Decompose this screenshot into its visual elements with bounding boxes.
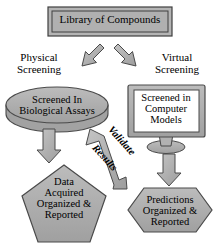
data-reported-line3: Organized & bbox=[20, 198, 108, 209]
physical-screening-label: Physical Screening bbox=[8, 52, 70, 75]
data-reported-line1: Data bbox=[20, 176, 108, 187]
diagram-canvas: Library of Compounds Physical Screening … bbox=[0, 0, 218, 250]
computer-models-line3: Models bbox=[134, 114, 198, 125]
biological-assays-label: Screened In Biological Assays bbox=[8, 94, 106, 116]
virtual-screening-arrow bbox=[114, 44, 136, 66]
predictions-reported-label: Predictions Organized & Reported bbox=[128, 194, 212, 227]
virtual-screening-label: Virtual Screening bbox=[146, 52, 208, 75]
predictions-reported-line1: Predictions bbox=[128, 194, 212, 205]
predictions-reported-line3: Reported bbox=[128, 216, 212, 227]
assays-to-data-arrow bbox=[37, 129, 61, 163]
data-reported-label: Data Acquired Organized & Reported bbox=[20, 176, 108, 220]
physical-screening-line1: Physical bbox=[8, 52, 70, 64]
physical-screening-line2: Screening bbox=[8, 64, 70, 76]
virtual-screening-line1: Virtual bbox=[146, 52, 208, 64]
biological-assays-line2: Biological Assays bbox=[8, 105, 106, 116]
physical-screening-arrow bbox=[82, 44, 104, 66]
biological-assays-line1: Screened In bbox=[8, 94, 106, 105]
library-of-compounds-label: Library of Compounds bbox=[52, 14, 168, 26]
predictions-reported-line2: Organized & bbox=[128, 205, 212, 216]
virtual-screening-line2: Screening bbox=[146, 64, 208, 76]
computer-models-line1: Screened in bbox=[134, 92, 198, 103]
models-to-predictions-arrow bbox=[157, 154, 181, 186]
data-reported-line4: Reported bbox=[20, 209, 108, 220]
data-reported-line2: Acquired bbox=[20, 187, 108, 198]
computer-models-line2: Computer bbox=[134, 103, 198, 114]
computer-models-label: Screened in Computer Models bbox=[134, 92, 198, 125]
